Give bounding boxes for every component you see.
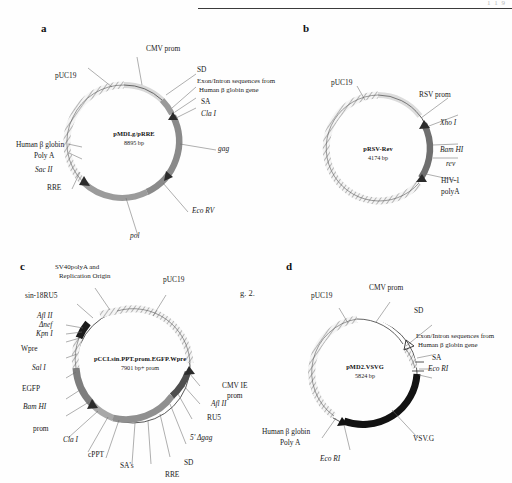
plasmid-name-b: pRSV-Rev bbox=[328, 145, 428, 153]
panel-letter-a: a bbox=[41, 22, 47, 34]
label-a-human-b-globin: Human β globin bbox=[16, 141, 64, 150]
label-c-puc19: pUC19 bbox=[163, 276, 184, 285]
plasmid-size-d: 5824 bp bbox=[315, 372, 415, 379]
label-a-puc19: pUC19 bbox=[55, 72, 76, 81]
label-a-exon-intron-line2: Human β globin gene bbox=[199, 86, 259, 94]
figure-caption-fragment: g. 2. bbox=[240, 288, 255, 298]
label-a-pol: pol bbox=[130, 232, 139, 241]
label-d-vsvg: VSV.G bbox=[413, 435, 434, 444]
header-rule bbox=[198, 8, 512, 9]
label-b-polya: polyA bbox=[441, 188, 459, 197]
label-d-human-b-globin: Human β globin bbox=[262, 428, 310, 437]
plasmid-name-c: pCCLsin.PPT.prom.EGFP.Wpre bbox=[78, 355, 202, 363]
label-c-cppt: cPPT bbox=[88, 451, 104, 460]
label-c-sv40-line2: Replication Origin bbox=[59, 272, 110, 280]
label-c-sas: SA's bbox=[120, 462, 134, 471]
label-c-sd: SD bbox=[184, 459, 193, 468]
label-c-sv40-line1: SV40polyA and bbox=[55, 263, 99, 271]
label-a-gag: gag bbox=[218, 145, 229, 154]
plasmid-size-a: 8895 bp bbox=[84, 139, 184, 146]
label-c-cmv-ie-line1: CMV IE bbox=[222, 382, 248, 391]
label-d-exon-intron-line2: Human β globin gene bbox=[418, 341, 478, 349]
label-b-rsv-prom: RSV prom bbox=[419, 91, 451, 100]
label-c-sal-i: Sal I bbox=[32, 364, 46, 373]
label-c-wpre: Wpre bbox=[21, 345, 37, 354]
plasmid-name-d: pMD2.VSVG bbox=[315, 363, 415, 371]
label-c-ru5: RU5 bbox=[207, 414, 221, 423]
label-a-eco-rv: Eco RV bbox=[192, 207, 214, 216]
label-d-sd: SD bbox=[414, 307, 423, 316]
label-a-cla-i: Cla I bbox=[201, 110, 216, 119]
label-c-kpn-i: Kpn I bbox=[36, 330, 53, 339]
label-d-eco-ri-right: Eco RI bbox=[428, 365, 448, 374]
label-b-hiv1: HIV-1 bbox=[441, 177, 460, 186]
label-b-bam-hi: Bam HI bbox=[440, 146, 463, 155]
label-b-xho-i: Xho I bbox=[440, 119, 456, 128]
label-c-sin18ru5: sin-18RU5 bbox=[25, 292, 57, 301]
plasmid-size-b: 4174 bp bbox=[328, 154, 428, 161]
label-a-rre: RRE bbox=[47, 184, 61, 193]
label-a-sac-ii: Sac II bbox=[35, 166, 52, 175]
label-c-afl-ii-right: Afl II bbox=[211, 400, 226, 409]
label-c-bam-hi: Bam HI bbox=[23, 403, 46, 412]
label-d-puc19: pUC19 bbox=[311, 292, 332, 301]
label-c-egfp: EGFP bbox=[22, 385, 40, 394]
label-c-dgag: 5' Δgag bbox=[190, 434, 212, 443]
label-a-exon-intron-line1: Exon/Intron sequences from bbox=[197, 77, 275, 85]
plasmid-size-c: 7901 bp+ prom bbox=[78, 364, 202, 371]
label-d-sa: SA bbox=[432, 354, 441, 363]
label-d-cmv-prom: CMV prom bbox=[369, 284, 403, 293]
label-c-prom: prom bbox=[33, 425, 49, 434]
label-d-eco-ri-bottom: Eco RI bbox=[320, 455, 340, 464]
label-c-cla-i: Cla I bbox=[63, 436, 78, 445]
panel-letter-b: b bbox=[303, 22, 309, 34]
label-d-exon-intron-line1: Exon/Intron sequences from bbox=[416, 332, 494, 340]
label-a-poly-a: Poly A bbox=[34, 152, 54, 161]
label-c-cmv-ie-line2: prom bbox=[227, 392, 243, 401]
label-a-sd: SD bbox=[197, 66, 206, 75]
label-a-sa: SA bbox=[201, 98, 210, 107]
label-c-rre: RRE bbox=[165, 471, 179, 480]
figure-page: 1 1 9 a bbox=[0, 0, 512, 483]
label-a-cmv-prom: CMV prom bbox=[146, 45, 180, 54]
page-corner-text: 1 1 9 bbox=[487, 0, 506, 7]
plasmid-name-a: pMDLg/pRRE bbox=[84, 130, 184, 138]
label-b-puc19: pUC19 bbox=[331, 79, 352, 88]
label-d-poly-a: Poly A bbox=[280, 439, 300, 448]
label-b-rev: rev bbox=[446, 160, 455, 169]
